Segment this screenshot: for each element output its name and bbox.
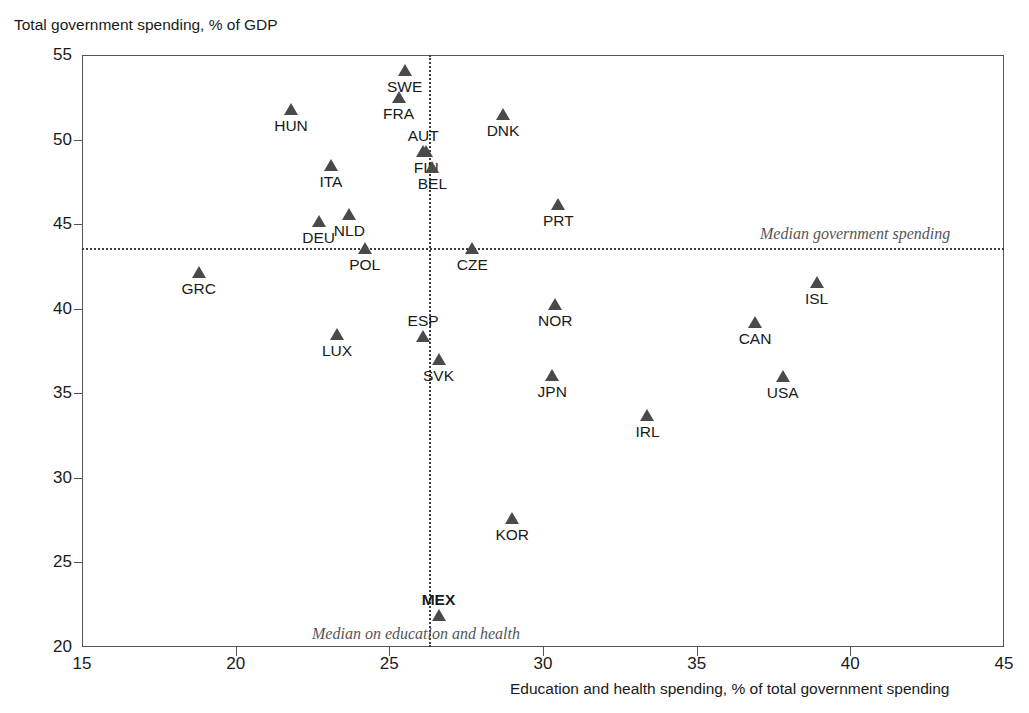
y-tick-label: 40 xyxy=(12,299,72,319)
y-tick-label: 25 xyxy=(12,552,72,572)
data-point-label: USA xyxy=(767,385,799,401)
data-point-label: KOR xyxy=(495,527,529,543)
triangle-marker-icon xyxy=(432,609,446,621)
data-point-label: GRC xyxy=(182,281,216,297)
data-point-label: IRL xyxy=(635,424,659,440)
triangle-marker-icon xyxy=(398,64,412,76)
triangle-marker-icon xyxy=(425,161,439,173)
triangle-marker-icon xyxy=(342,208,356,220)
median-horizontal-line xyxy=(82,248,1004,250)
x-axis-title: Education and health spending, % of tota… xyxy=(510,680,949,698)
data-point-label: LUX xyxy=(322,343,352,359)
x-tick-label: 40 xyxy=(820,654,880,674)
data-point-label: NLD xyxy=(334,223,365,239)
median-government-spending-annotation: Median government spending xyxy=(760,225,950,243)
data-point-label: BEL xyxy=(418,176,447,192)
triangle-marker-icon xyxy=(192,266,206,278)
y-tick-mark xyxy=(74,393,83,394)
triangle-marker-icon xyxy=(392,91,406,103)
y-tick-label: 50 xyxy=(12,130,72,150)
data-point-label: MEX xyxy=(422,592,456,608)
triangle-marker-icon xyxy=(416,330,430,342)
scatter-chart: Total government spending, % of GDP 2025… xyxy=(0,0,1029,713)
triangle-marker-icon xyxy=(548,298,562,310)
x-tick-label: 25 xyxy=(359,654,419,674)
x-tick-label: 30 xyxy=(513,654,573,674)
triangle-marker-icon xyxy=(640,409,654,421)
plot-area xyxy=(82,55,1004,647)
data-point-label: FRA xyxy=(383,106,414,122)
x-tick-label: 35 xyxy=(667,654,727,674)
data-point-label: DNK xyxy=(487,123,520,139)
y-tick-label: 30 xyxy=(12,468,72,488)
triangle-marker-icon xyxy=(748,316,762,328)
triangle-marker-icon xyxy=(505,512,519,524)
triangle-marker-icon xyxy=(496,108,510,120)
data-point-label: PRT xyxy=(543,213,574,229)
data-point-label: NOR xyxy=(538,313,572,329)
y-tick-mark xyxy=(74,309,83,310)
y-tick-label: 45 xyxy=(12,214,72,234)
median-education-health-annotation: Median on education and health xyxy=(312,625,520,643)
triangle-marker-icon xyxy=(810,276,824,288)
triangle-marker-icon xyxy=(551,198,565,210)
y-tick-label: 55 xyxy=(12,45,72,65)
data-point-label: JPN xyxy=(538,384,567,400)
triangle-marker-icon xyxy=(324,159,338,171)
triangle-marker-icon xyxy=(312,215,326,227)
data-point-label: DEU xyxy=(302,230,335,246)
data-point-label: POL xyxy=(349,257,380,273)
data-point-label: ISL xyxy=(805,291,828,307)
triangle-marker-icon xyxy=(419,145,433,157)
x-tick-label: 45 xyxy=(974,654,1029,674)
x-tick-label: 20 xyxy=(206,654,266,674)
data-point-label: ESP xyxy=(408,313,439,329)
x-tick-label: 15 xyxy=(52,654,112,674)
data-point-label: CAN xyxy=(739,331,772,347)
triangle-marker-icon xyxy=(358,242,372,254)
y-tick-mark xyxy=(74,140,83,141)
triangle-marker-icon xyxy=(545,369,559,381)
y-tick-mark xyxy=(74,562,83,563)
triangle-marker-icon xyxy=(330,328,344,340)
triangle-marker-icon xyxy=(776,370,790,382)
data-point-label: AUT xyxy=(408,128,439,144)
triangle-marker-icon xyxy=(284,103,298,115)
data-point-label: CZE xyxy=(457,257,488,273)
y-tick-mark xyxy=(74,224,83,225)
data-point-label: SVK xyxy=(423,368,454,384)
triangle-marker-icon xyxy=(432,353,446,365)
y-tick-label: 35 xyxy=(12,383,72,403)
y-tick-mark xyxy=(74,478,83,479)
y-axis-title: Total government spending, % of GDP xyxy=(14,16,278,34)
data-point-label: ITA xyxy=(319,174,342,190)
data-point-label: HUN xyxy=(274,118,308,134)
triangle-marker-icon xyxy=(465,242,479,254)
